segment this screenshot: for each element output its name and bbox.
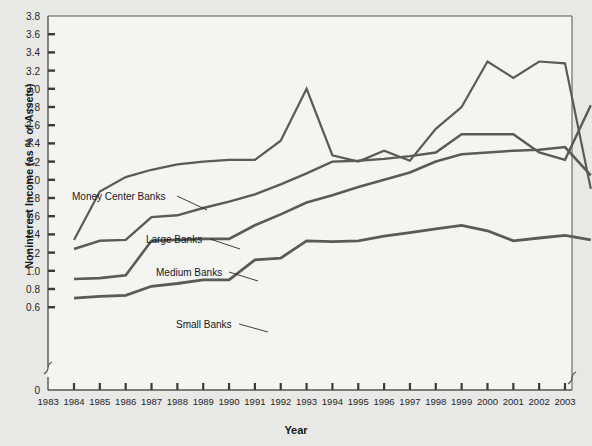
y-tick-label: 1.8	[4, 193, 40, 204]
y-tick-label: 2.6	[4, 120, 40, 131]
series-label-small: Small Banks	[176, 319, 232, 330]
y-tick-label: 0.6	[4, 302, 40, 313]
y-tick-label: 1.6	[4, 211, 40, 222]
y-tick-label: 3.8	[4, 11, 40, 22]
y-tick-label: 2.2	[4, 156, 40, 167]
line-chart-canvas	[0, 0, 592, 446]
y-tick-label: 3.6	[4, 29, 40, 40]
y-tick-label: 0	[4, 385, 40, 396]
y-tick-label: 3.4	[4, 47, 40, 58]
y-tick-label: 2.0	[4, 174, 40, 185]
x-axis-title: Year	[0, 424, 592, 436]
y-tick-label: 3.2	[4, 65, 40, 76]
x-tick-label: 2003	[545, 396, 585, 407]
chart-container: Noninterest Income (as % of Assets) Year…	[0, 0, 592, 446]
series-label-money-center: Money Center Banks	[72, 191, 165, 202]
y-tick-label: 2.4	[4, 138, 40, 149]
y-tick-label: 1.4	[4, 229, 40, 240]
plot-area-background	[48, 16, 572, 390]
y-tick-label: 2.8	[4, 102, 40, 113]
y-tick-label: 1.0	[4, 265, 40, 276]
series-label-large: Large Banks	[146, 234, 202, 245]
series-label-medium: Medium Banks	[156, 267, 222, 278]
y-tick-label: 0.8	[4, 284, 40, 295]
y-tick-label: 1.2	[4, 247, 40, 258]
y-tick-label: 3.0	[4, 83, 40, 94]
